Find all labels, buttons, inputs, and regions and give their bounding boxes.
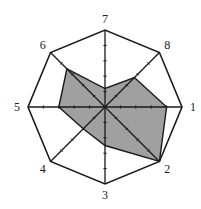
axis-label-7: 7 (102, 12, 108, 26)
axis-label-8: 8 (164, 38, 170, 52)
radar-axes (28, 30, 182, 184)
axis-label-5: 5 (14, 100, 20, 114)
axis-label-1: 1 (190, 100, 196, 114)
axis-label-3: 3 (102, 188, 108, 202)
axis-label-4: 4 (40, 162, 46, 176)
axis-label-6: 6 (40, 38, 46, 52)
radar-chart: 12345678 (0, 0, 201, 209)
axis-label-2: 2 (164, 162, 170, 176)
